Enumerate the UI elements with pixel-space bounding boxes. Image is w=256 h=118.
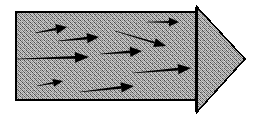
arrow-head-texture-overlay [197, 7, 245, 112]
shape-layer [16, 7, 245, 112]
flow-arrow-diagram [0, 0, 256, 118]
figure-canvas [0, 0, 256, 118]
